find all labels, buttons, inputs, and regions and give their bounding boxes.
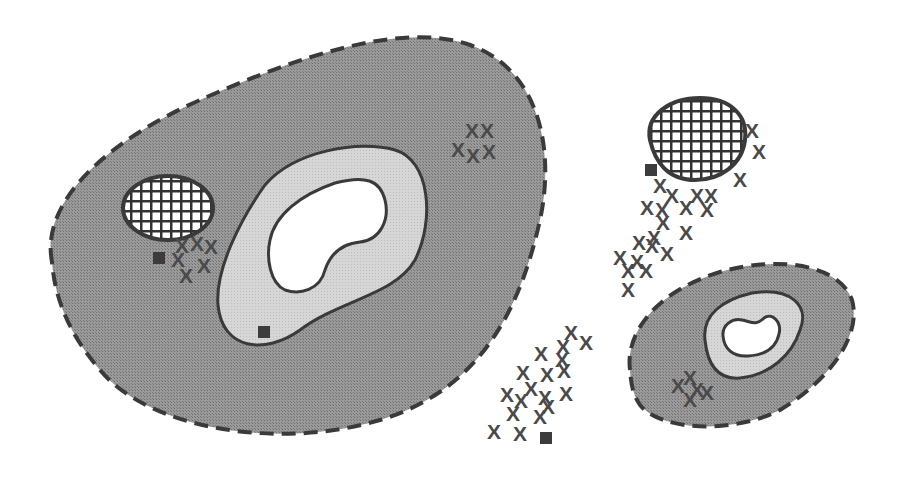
- square-marker: [645, 164, 657, 176]
- small-region: [630, 264, 854, 427]
- x-marker: X: [745, 119, 759, 142]
- x-marker: X: [465, 119, 479, 142]
- square-marker: [540, 432, 552, 444]
- x-marker: X: [700, 198, 714, 221]
- hatched-patch: [123, 176, 213, 240]
- x-marker: X: [540, 363, 554, 386]
- x-marker: X: [660, 242, 674, 265]
- x-marker: X: [451, 138, 465, 161]
- x-marker: X: [639, 259, 653, 282]
- inner-zone: [723, 316, 780, 356]
- x-marker: X: [190, 232, 204, 255]
- x-marker: X: [645, 234, 659, 257]
- hatched-patch: [649, 98, 745, 180]
- x-marker: X: [700, 381, 714, 404]
- x-marker: X: [534, 342, 548, 365]
- square-marker: [258, 326, 270, 338]
- x-marker: X: [559, 382, 573, 405]
- x-marker: X: [579, 331, 593, 354]
- x-marker: X: [679, 221, 693, 244]
- floating-clusters-layer: [649, 98, 745, 180]
- x-marker: X: [683, 388, 697, 411]
- x-marker: X: [482, 140, 496, 163]
- square-marker: [153, 252, 165, 264]
- zone-diagram: XXXXXXXXXXXXXXXXXXXXXXXXXXXXXXXXXXXXXXXX…: [0, 0, 904, 496]
- x-marker: X: [640, 196, 654, 219]
- x-marker: X: [557, 359, 571, 382]
- x-marker: X: [679, 196, 693, 219]
- x-marker: X: [752, 140, 766, 163]
- x-marker: X: [513, 422, 527, 445]
- x-marker: X: [733, 168, 747, 191]
- regions-layer: [51, 37, 854, 434]
- x-marker: X: [466, 144, 480, 167]
- large-region: [51, 37, 546, 434]
- x-marker: X: [621, 278, 635, 301]
- x-marker: X: [197, 254, 211, 277]
- x-marker: X: [480, 119, 494, 142]
- x-marker: X: [533, 405, 547, 428]
- upper-right-cluster: [649, 98, 745, 180]
- x-marker: X: [179, 264, 193, 287]
- x-marker: X: [487, 420, 501, 443]
